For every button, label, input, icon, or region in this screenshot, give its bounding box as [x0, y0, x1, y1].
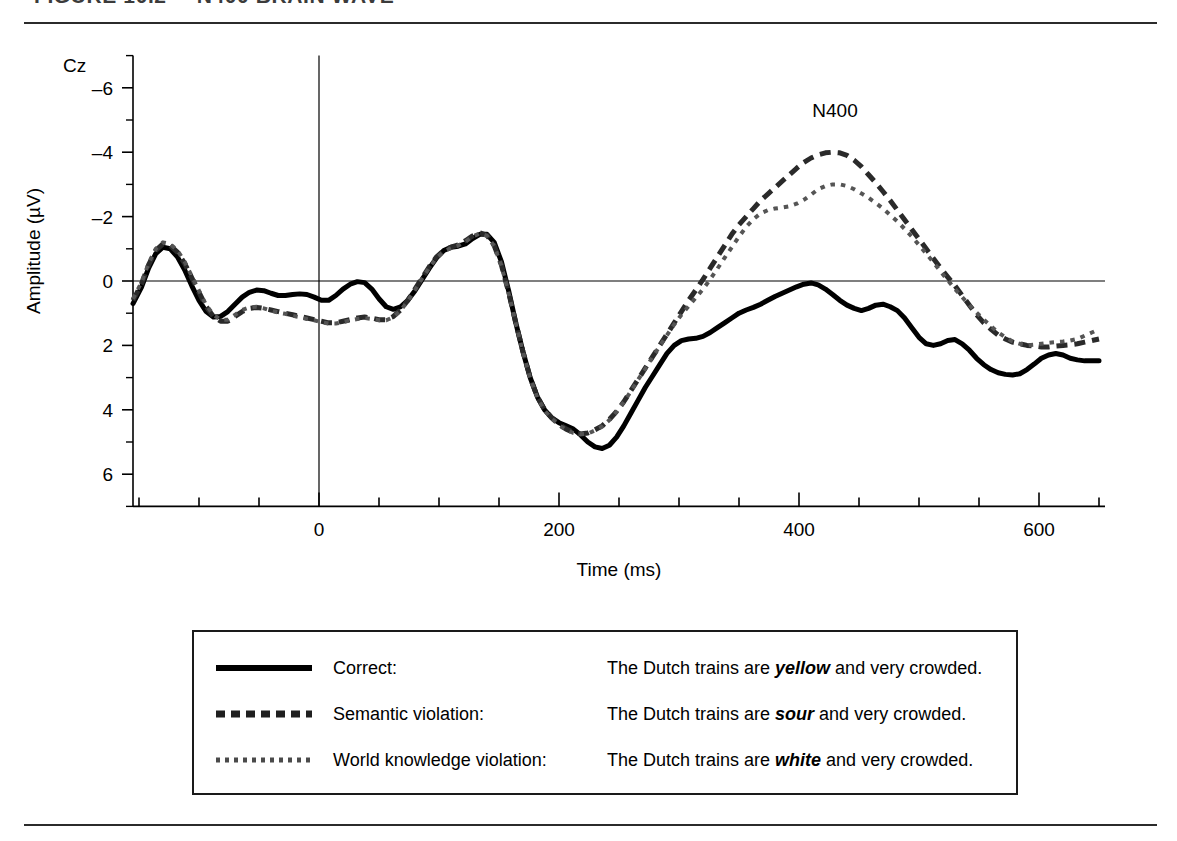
erp-plot-svg: –6–4–202460200400600Time (ms)Amplitude (… [0, 40, 1177, 600]
sentence-before: The Dutch trains are [607, 658, 775, 678]
figure-title: N400 BRAIN WAVE [197, 0, 395, 7]
erp-chart: –6–4–202460200400600Time (ms)Amplitude (… [0, 40, 1177, 600]
sentence-after: and very crowded. [821, 750, 973, 770]
x-tick-label: 0 [314, 519, 325, 540]
solid-line-icon [214, 662, 314, 674]
legend-swatch-world-knowledge [194, 754, 333, 766]
legend-label-semantic: Semantic violation: [333, 704, 607, 725]
figure-number: FIGURE 10.2 [34, 0, 167, 7]
dotted-line-icon [214, 754, 314, 766]
figure-heading: FIGURE 10.2N400 BRAIN WAVE [34, 0, 394, 8]
legend-swatch-semantic [194, 708, 333, 720]
x-axis-title: Time (ms) [577, 559, 662, 580]
sentence-before: The Dutch trains are [607, 704, 775, 724]
figure-page: FIGURE 10.2N400 BRAIN WAVE –6–4–20246020… [0, 0, 1177, 841]
top-rule [24, 22, 1157, 24]
legend-box: Correct: The Dutch trains are yellow and… [192, 630, 1018, 795]
y-tick-label: –4 [92, 142, 114, 163]
legend-sentence-correct: The Dutch trains are yellow and very cro… [607, 658, 1016, 679]
x-tick-label: 200 [543, 519, 575, 540]
legend-row: World knowledge violation: The Dutch tra… [194, 740, 1016, 780]
x-tick-label: 600 [1023, 519, 1055, 540]
legend-label-correct: Correct: [333, 658, 607, 679]
sentence-after: and very crowded. [830, 658, 982, 678]
sentence-keyword: sour [775, 704, 814, 724]
legend-row: Correct: The Dutch trains are yellow and… [194, 648, 1016, 688]
legend-sentence-semantic: The Dutch trains are sour and very crowd… [607, 704, 1016, 725]
y-tick-label: 2 [102, 335, 113, 356]
y-tick-label: –2 [92, 207, 113, 228]
legend-swatch-correct [194, 662, 333, 674]
sentence-after: and very crowded. [814, 704, 966, 724]
waveform-correct [133, 234, 1099, 448]
sentence-keyword: white [775, 750, 821, 770]
legend-label-world-knowledge: World knowledge violation: [333, 750, 607, 771]
y-tick-label: 0 [102, 271, 113, 292]
sentence-keyword: yellow [775, 658, 830, 678]
channel-label: Cz [63, 55, 86, 76]
legend-sentence-world-knowledge: The Dutch trains are white and very crow… [607, 750, 1016, 771]
sentence-before: The Dutch trains are [607, 750, 775, 770]
y-axis-title: Amplitude (µV) [23, 188, 44, 314]
y-tick-label: 6 [102, 464, 113, 485]
y-tick-label: –6 [92, 78, 113, 99]
legend-row: Semantic violation: The Dutch trains are… [194, 694, 1016, 734]
dashed-line-icon [214, 708, 314, 720]
bottom-rule [24, 824, 1157, 826]
annotation-n400: N400 [812, 100, 857, 121]
y-tick-label: 4 [102, 400, 113, 421]
x-tick-label: 400 [783, 519, 815, 540]
